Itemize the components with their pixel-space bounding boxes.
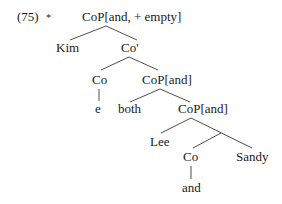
node-cop-and-2: CoP[and] (178, 101, 228, 116)
ungrammatical-star: * (46, 12, 51, 23)
example-number: (75) (17, 9, 39, 24)
edge-cop-and-2-lee (161, 118, 191, 133)
edge-root-cobar (106, 26, 137, 40)
edge-cobar-cop-and (129, 57, 158, 70)
node-lee: Lee (150, 134, 170, 149)
node-kim: Kim (56, 40, 79, 55)
edge-cobar-co (101, 57, 129, 70)
node-both: both (118, 101, 142, 116)
edge-cop-and-2-sandy (191, 118, 252, 148)
node-cop-and-1: CoP[and] (142, 72, 192, 87)
node-sandy: Sandy (236, 149, 269, 164)
edge-mid-co (193, 133, 221, 148)
node-root-cop-empty: CoP[and, + empty] (82, 9, 181, 24)
node-co-2: Co (183, 149, 198, 164)
node-co-bar: Co' (121, 40, 139, 55)
node-and: and (182, 180, 201, 195)
node-co-1: Co (92, 72, 107, 87)
node-e: e (95, 101, 101, 116)
edge-root-kim (70, 26, 106, 40)
syntax-tree-diagram: (75) * CoP[and, + empty] Kim Co' Co CoP[… (0, 0, 282, 204)
